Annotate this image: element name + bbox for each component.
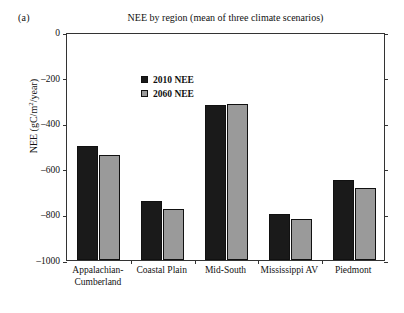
y-axis-tick-mark-right (384, 34, 388, 35)
y-axis-title-pre: NEE (gC/m (28, 106, 39, 154)
y-axis-tick-label: –600 (41, 164, 60, 177)
y-axis-tick-mark-right (384, 125, 388, 126)
bar-2060[interactable] (355, 188, 376, 260)
legend-label: 2060 NEE (153, 89, 194, 99)
plot-area: 0–200–400–600–800–1000 2010 NEE2060 NEE (66, 33, 385, 261)
bar-2010[interactable] (269, 214, 290, 260)
panel-label: (a) (18, 12, 30, 23)
legend-item[interactable]: 2010 NEE (141, 73, 194, 86)
x-axis-category-label: Appalachian- Cumberland (66, 265, 130, 288)
x-axis-tick-mark (131, 260, 132, 264)
bar-group (269, 34, 312, 260)
bar-group (77, 34, 120, 260)
y-axis-tick-mark (63, 262, 67, 263)
x-axis-category-label: Mid-South (194, 265, 258, 277)
y-axis-title-exponent: 2 (27, 102, 35, 106)
x-axis-category-label: Coastal Plain (130, 265, 194, 277)
legend-swatch-icon (141, 90, 148, 97)
bar-2010[interactable] (77, 146, 98, 260)
y-axis-tick-mark-right (384, 216, 388, 217)
x-axis-tick-mark (258, 260, 259, 264)
y-axis-title-post: /year) (28, 79, 39, 102)
bar-2010[interactable] (205, 105, 226, 260)
legend-item[interactable]: 2060 NEE (141, 87, 194, 100)
bar-2060[interactable] (291, 219, 312, 260)
y-axis-tick-mark-right (384, 262, 388, 263)
chart-legend: 2010 NEE2060 NEE (141, 73, 194, 101)
y-axis-tick-mark-right (384, 170, 388, 171)
legend-label: 2010 NEE (153, 75, 194, 85)
bar-2060[interactable] (227, 104, 248, 260)
chart-title: NEE by region (mean of three climate sce… (66, 12, 385, 24)
y-axis-tick-mark-right (384, 79, 388, 80)
y-axis-tick-label: –800 (41, 209, 60, 222)
bar-group (141, 34, 184, 260)
y-axis-tick-label: 0 (55, 27, 60, 40)
figure-panel-a: (a) NEE by region (mean of three climate… (0, 0, 404, 313)
bar-2010[interactable] (333, 180, 354, 260)
x-axis-category-label: Mississippi AV (257, 265, 321, 277)
x-axis-tick-mark (195, 260, 196, 264)
bars-layer (67, 34, 384, 260)
bar-2060[interactable] (163, 209, 184, 260)
y-axis-tick-label: –1000 (36, 255, 60, 268)
bar-2060[interactable] (99, 155, 120, 260)
bar-group (205, 34, 248, 260)
legend-swatch-icon (141, 76, 148, 83)
y-axis-title: NEE (gC/m2/year) (27, 36, 39, 196)
x-axis-category-label: Piedmont (321, 265, 385, 277)
x-axis-tick-mark (322, 260, 323, 264)
bar-group (333, 34, 376, 260)
bar-2010[interactable] (141, 201, 162, 260)
y-axis-tick-label: –200 (41, 73, 60, 86)
y-axis-tick-label: –400 (41, 118, 60, 131)
